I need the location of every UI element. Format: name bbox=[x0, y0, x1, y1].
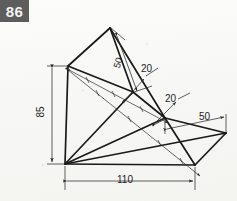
exercise-number-label: 86 bbox=[6, 3, 24, 20]
solid-body bbox=[65, 28, 226, 165]
edge-topleft-apex bbox=[68, 28, 110, 66]
dimension-label-middle-20: 20 bbox=[165, 94, 176, 104]
ext-line-middle-20-b bbox=[178, 93, 190, 99]
edge-origin-topleft bbox=[65, 66, 68, 164]
dimension-label-110: 110 bbox=[117, 175, 133, 185]
dimension-label-upper-20: 20 bbox=[141, 64, 152, 74]
edge-midlower-right bbox=[165, 118, 226, 133]
equal-mark-chain-upper bbox=[71, 71, 168, 123]
technical-drawing-svg bbox=[0, 0, 237, 201]
tick-l2 bbox=[128, 116, 131, 122]
edge-origin-midlower bbox=[65, 118, 165, 164]
edge-topleft-midupper bbox=[68, 66, 133, 92]
chain-line-upper bbox=[71, 71, 168, 123]
tick-l4 bbox=[180, 158, 183, 164]
edge-apex-midlower bbox=[110, 28, 165, 118]
dimension-label-85: 85 bbox=[36, 102, 46, 122]
drawing-canvas: 86 85 110 50 20 20 50 bbox=[0, 0, 237, 201]
tick-u1 bbox=[86, 77, 89, 83]
dimension-label-right-50: 50 bbox=[199, 112, 210, 122]
edge-origin-bottomright bbox=[65, 164, 195, 165]
dim-line-right-50 bbox=[167, 117, 224, 129]
exercise-number-badge: 86 bbox=[0, 0, 29, 22]
edge-midupper-midlower bbox=[133, 92, 165, 118]
